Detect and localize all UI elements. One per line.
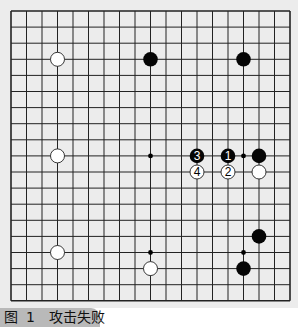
move-number: 3 — [194, 149, 201, 163]
caption-number: 1 — [26, 309, 35, 325]
black-stone — [236, 261, 251, 276]
white-stone — [144, 262, 158, 276]
star-point — [148, 250, 153, 255]
black-stone — [252, 149, 267, 164]
go-board: 3142 — [0, 0, 298, 308]
figure-caption: 图1攻击失败 — [0, 308, 100, 327]
star-point — [148, 154, 153, 159]
move-number: 2 — [225, 165, 232, 179]
star-point — [241, 154, 246, 159]
move-number: 4 — [194, 165, 201, 179]
white-stone — [51, 149, 65, 163]
white-stone — [51, 52, 65, 66]
black-stone — [236, 52, 251, 67]
white-stone — [51, 246, 65, 260]
star-point — [241, 250, 246, 255]
black-stone — [143, 52, 158, 67]
white-stone — [252, 165, 266, 179]
caption-title: 攻击失败 — [49, 309, 105, 325]
black-stone — [252, 229, 267, 244]
caption-prefix: 图 — [4, 309, 18, 325]
move-number: 1 — [225, 149, 232, 163]
